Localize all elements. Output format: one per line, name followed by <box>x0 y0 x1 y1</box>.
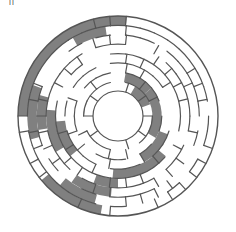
maze-center-circle <box>93 91 143 141</box>
circular-maze <box>0 0 236 232</box>
